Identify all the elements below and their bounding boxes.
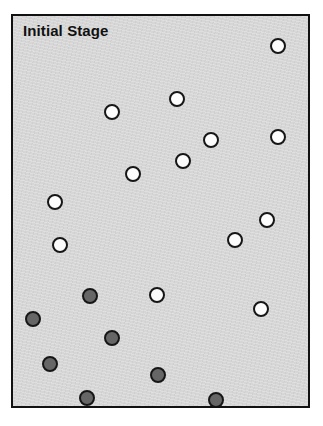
node-open	[203, 132, 219, 148]
figure-container: Initial Stage	[0, 0, 323, 426]
node-filled	[42, 356, 58, 372]
node-filled	[79, 390, 95, 406]
node-open	[52, 237, 68, 253]
node-open	[175, 153, 191, 169]
initial-stage-panel: Initial Stage	[11, 14, 310, 408]
node-open	[227, 232, 243, 248]
node-open	[169, 91, 185, 107]
node-filled	[25, 311, 41, 327]
node-open	[270, 38, 286, 54]
node-filled	[104, 330, 120, 346]
node-filled	[150, 367, 166, 383]
node-open	[259, 212, 275, 228]
node-open	[270, 129, 286, 145]
node-open	[104, 104, 120, 120]
node-open	[149, 287, 165, 303]
panel-title: Initial Stage	[23, 23, 109, 40]
node-open	[125, 166, 141, 182]
panel-texture-overlay	[13, 16, 308, 406]
node-filled	[82, 288, 98, 304]
node-open	[47, 194, 63, 210]
node-open	[253, 301, 269, 317]
node-filled	[208, 392, 224, 408]
